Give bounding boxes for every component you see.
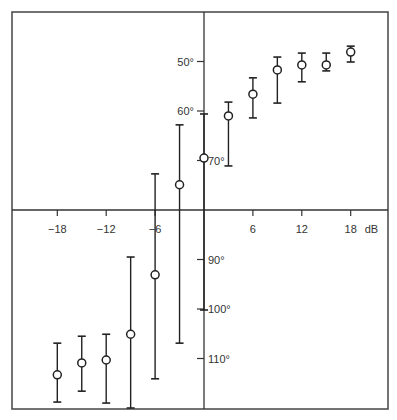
x-tick-label: −18 bbox=[48, 223, 67, 235]
circle-marker-icon bbox=[347, 48, 355, 56]
circle-marker-icon bbox=[322, 61, 330, 69]
data-point bbox=[151, 174, 159, 379]
circle-marker-icon bbox=[53, 371, 61, 379]
y-tick-label: 70° bbox=[208, 155, 225, 167]
x-tick-label: 6 bbox=[250, 223, 256, 235]
circle-marker-icon bbox=[176, 181, 184, 189]
data-point bbox=[127, 257, 135, 408]
y-tick-label: 90° bbox=[208, 254, 225, 266]
data-point bbox=[53, 343, 61, 402]
y-tick-label: 110° bbox=[208, 353, 230, 365]
circle-marker-icon bbox=[224, 112, 232, 120]
x-tick-label: −12 bbox=[97, 223, 116, 235]
circle-marker-icon bbox=[151, 271, 159, 279]
circle-marker-icon bbox=[102, 356, 110, 364]
data-point bbox=[176, 125, 184, 343]
circle-marker-icon bbox=[127, 330, 135, 338]
data-point bbox=[322, 53, 330, 71]
circle-marker-icon bbox=[298, 61, 306, 69]
data-point bbox=[102, 334, 110, 403]
circle-marker-icon bbox=[249, 90, 257, 98]
x-ticks: −18−12−661218 bbox=[48, 210, 357, 235]
data-point bbox=[200, 114, 208, 310]
x-axis-unit-label: dB bbox=[365, 223, 378, 235]
data-point bbox=[249, 78, 257, 118]
x-tick-label: 18 bbox=[345, 223, 357, 235]
errorbar-chart: −18−12−661218 50°60°70°90°100°110° dB bbox=[0, 0, 397, 420]
data-point bbox=[273, 57, 281, 103]
circle-marker-icon bbox=[200, 154, 208, 162]
circle-marker-icon bbox=[78, 359, 86, 367]
data-point bbox=[347, 46, 355, 62]
data-point bbox=[298, 53, 306, 82]
x-tick-label: 12 bbox=[296, 223, 308, 235]
y-tick-label: 60° bbox=[177, 105, 194, 117]
circle-marker-icon bbox=[273, 66, 281, 74]
y-tick-label: 50° bbox=[177, 56, 194, 68]
data-point bbox=[224, 102, 232, 166]
y-tick-label: 100° bbox=[208, 303, 231, 315]
data-point bbox=[78, 336, 86, 391]
